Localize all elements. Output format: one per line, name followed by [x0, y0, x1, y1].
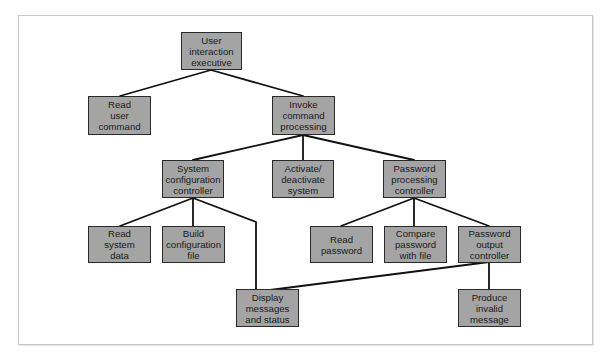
edge-invoke-system-config — [193, 135, 303, 160]
node-label: System configuration controller — [166, 163, 221, 196]
node-produce-invalid-message: Produce invalid message — [458, 289, 521, 327]
node-label: Password output controller — [468, 228, 510, 261]
node-label: Read user command — [98, 99, 140, 132]
node-password-output-controller: Password output controller — [458, 226, 521, 263]
edge-pwproc-read-password — [341, 198, 414, 226]
node-system-configuration-controller: System configuration controller — [162, 160, 224, 198]
edge-sysconfig-read-system-data — [120, 198, 193, 226]
edge-pwout-display-messages — [270, 262, 489, 290]
node-compare-password-with-file: Compare password with file — [384, 226, 447, 263]
node-label: Activate/ deactivate system — [281, 163, 325, 196]
node-build-configuration-file: Build configuration file — [162, 226, 225, 263]
node-read-system-data: Read system data — [88, 226, 151, 263]
node-label: Invoke command processing — [280, 99, 326, 132]
node-read-user-command: Read user command — [88, 96, 151, 135]
node-label: Produce invalid message — [470, 292, 509, 325]
edge-invoke-password-processing — [303, 135, 414, 160]
edge-root-invoke-command — [211, 70, 303, 96]
node-read-password: Read password — [310, 226, 373, 263]
node-label: Password processing controller — [391, 163, 437, 196]
node-activate-deactivate-system: Activate/ deactivate system — [272, 160, 334, 198]
node-label: User interaction executive — [189, 35, 233, 68]
node-password-processing-controller: Password processing controller — [383, 160, 446, 198]
edge-root-read-user-command — [120, 70, 211, 96]
node-label: Read password — [321, 234, 362, 256]
node-display-messages-and-status: Display messages and status — [236, 289, 299, 327]
node-user-interaction-executive: User interaction executive — [181, 32, 242, 70]
edge-pwproc-output-controller — [414, 198, 489, 226]
node-label: Compare password with file — [395, 228, 436, 261]
node-label: Display messages and status — [245, 292, 289, 325]
node-label: Build configuration file — [166, 228, 221, 261]
node-label: Read system data — [104, 228, 134, 261]
node-invoke-command-processing: Invoke command processing — [272, 96, 335, 135]
